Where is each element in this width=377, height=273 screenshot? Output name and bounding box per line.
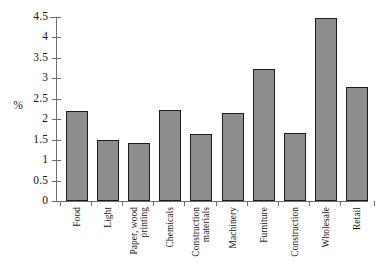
- y-axis-tick-label: 1: [8, 154, 48, 166]
- x-axis-tick: [184, 201, 185, 206]
- y-axis-tick-label: 2.5: [8, 93, 48, 105]
- y-axis-tick: [52, 160, 61, 161]
- y-axis-tick: [52, 99, 61, 100]
- x-axis-tick: [122, 201, 123, 206]
- y-axis-tick-label: 3: [8, 72, 48, 84]
- x-axis-category-label: Construction materials: [191, 207, 211, 271]
- x-axis-tick: [340, 201, 341, 206]
- y-axis-tick-label: 4.5: [8, 11, 48, 23]
- x-axis-tick: [153, 201, 154, 206]
- bar: [346, 87, 368, 201]
- bar: [128, 143, 150, 201]
- x-axis-tick: [374, 201, 375, 206]
- bar: [284, 133, 306, 201]
- x-axis-tick: [278, 201, 279, 206]
- bar: [315, 18, 337, 201]
- y-axis-tick: [50, 17, 61, 18]
- bar: [159, 110, 181, 201]
- x-axis-category-label: Machinery: [228, 207, 238, 271]
- y-axis-tick-label: 0: [8, 195, 48, 207]
- y-axis-tick-label: 3.5: [8, 52, 48, 64]
- bar-chart: % 00.511.522.533.544.5FoodLightPaper, wo…: [0, 0, 377, 273]
- y-axis-tick-label: 0.5: [8, 175, 48, 187]
- bar: [97, 140, 119, 201]
- x-axis-category-label: Paper, wood printing: [129, 207, 149, 271]
- y-axis-tick: [52, 119, 61, 120]
- y-axis-tick-label: 4: [8, 31, 48, 43]
- x-axis-tick: [60, 201, 61, 206]
- y-axis-tick: [52, 140, 61, 141]
- bar: [253, 69, 275, 201]
- x-axis-category-label: Furniture: [259, 207, 269, 271]
- bar: [66, 111, 88, 201]
- y-axis-tick: [52, 37, 61, 38]
- bar: [190, 134, 212, 201]
- x-axis-category-label: Light: [103, 207, 113, 271]
- y-axis-tick: [52, 181, 61, 182]
- x-axis-category-label: Wholesale: [321, 207, 331, 271]
- x-axis-tick: [247, 201, 248, 206]
- x-axis-tick: [309, 201, 310, 206]
- x-axis-category-label: Chemicals: [165, 207, 175, 271]
- x-axis-tick: [91, 201, 92, 206]
- x-axis-category-label: Food: [72, 207, 82, 271]
- x-axis-tick: [216, 201, 217, 206]
- y-axis-tick: [52, 58, 61, 59]
- x-axis-category-label: Retail: [352, 207, 362, 271]
- y-axis-tick-label: 1.5: [8, 134, 48, 146]
- x-axis-category-label: Construction: [290, 207, 300, 271]
- y-axis-tick: [52, 78, 61, 79]
- bar: [222, 113, 244, 201]
- y-axis-tick-label: 2: [8, 113, 48, 125]
